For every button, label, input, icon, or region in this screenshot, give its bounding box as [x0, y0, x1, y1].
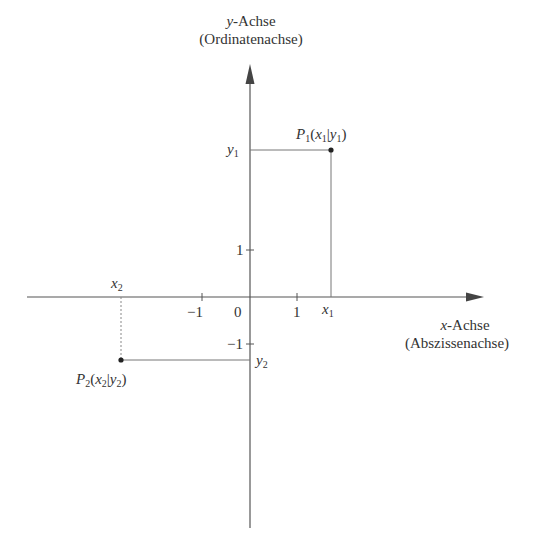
- point-p2: [118, 357, 123, 362]
- label-y1: y1: [227, 142, 239, 159]
- label-point-p1: P1(x1|y1): [296, 127, 347, 144]
- x-axis-suffix: -Achse: [447, 317, 489, 333]
- tick-label-origin: 0: [234, 305, 242, 320]
- coordinate-system: [0, 0, 541, 543]
- label-x2: x2: [111, 276, 123, 293]
- x-axis-title: x-Achse: [400, 318, 530, 333]
- tick-label-x-pos1: 1: [293, 305, 301, 320]
- label-x1: x1: [322, 302, 334, 319]
- x-axis-subtitle: (Abszissenachse): [378, 336, 536, 351]
- tick-label-y-neg1: −1: [227, 337, 243, 352]
- x-axis-arrow-icon: [466, 293, 484, 302]
- y-axis-subtitle: (Ordinatenachse): [185, 32, 317, 47]
- y-axis-arrow-icon: [246, 64, 255, 84]
- label-point-p2: P2(x2|y2): [76, 372, 127, 389]
- tick-label-y-pos1: 1: [236, 243, 244, 258]
- point-p1: [328, 147, 333, 152]
- y-axis-title: y-Achse: [190, 14, 312, 29]
- y-axis-suffix: -Achse: [233, 13, 275, 29]
- label-y2: y2: [256, 353, 268, 370]
- tick-label-x-neg1: −1: [187, 305, 203, 320]
